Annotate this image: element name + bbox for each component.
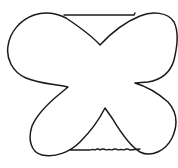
shape-outline	[8, 13, 177, 156]
bottom-line	[70, 149, 140, 150]
top-line	[64, 13, 135, 15]
four-lobed-outline-drawing	[0, 0, 178, 168]
sketch-canvas	[0, 0, 178, 168]
